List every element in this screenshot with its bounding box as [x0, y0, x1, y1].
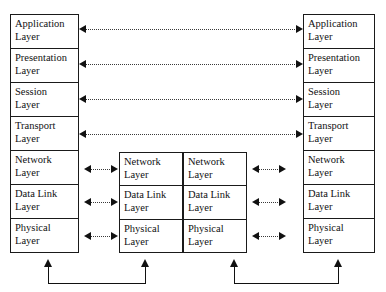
midright-layer-datalink-line2: Layer [188, 201, 246, 214]
midright-layer-physical-line1: Physical [188, 222, 246, 235]
midleft-layer-physical-line1: Physical [124, 222, 182, 235]
midleft-layer-datalink: Data Link Layer [120, 186, 182, 219]
right-layer-session: Session Layer [304, 83, 374, 117]
physical-medium-2-riser-left [234, 266, 235, 284]
hop-link-right-datalink-arrow-right [279, 198, 286, 206]
midleft-layer-datalink-line2: Layer [124, 201, 182, 214]
left-layer-application: Application Layer [11, 15, 78, 49]
peer-link-transport [86, 134, 297, 136]
midright-layer-datalink: Data Link Layer [184, 186, 246, 219]
physical-medium-2-base [234, 283, 338, 284]
left-layer-network-line2: Layer [15, 166, 78, 179]
hop-link-left-datalink-arrow-left [84, 198, 91, 206]
left-layer-application-line2: Layer [15, 30, 78, 43]
left-layer-presentation: Presentation Layer [11, 49, 78, 83]
hop-link-right-network [259, 169, 280, 171]
left-layer-datalink: Data Link Layer [11, 185, 78, 219]
left-layer-session-line1: Session [15, 85, 78, 98]
right-layer-transport-line1: Transport [308, 119, 374, 132]
hop-link-right-physical-arrow-left [252, 232, 259, 240]
right-layer-datalink-line1: Data Link [308, 187, 374, 200]
left-layer-physical: Physical Layer [11, 219, 78, 252]
peer-link-transport-arrow-left [79, 130, 86, 138]
peer-link-application [86, 29, 297, 31]
peer-link-session-arrow-right [296, 95, 303, 103]
hop-link-right-datalink-arrow-left [252, 198, 259, 206]
hop-link-left-network-arrow-left [84, 165, 91, 173]
right-layer-physical: Physical Layer [304, 219, 374, 252]
left-layer-datalink-line2: Layer [15, 200, 78, 213]
right-layer-datalink: Data Link Layer [304, 185, 374, 219]
right-layer-transport-line2: Layer [308, 132, 374, 145]
right-layer-presentation: Presentation Layer [304, 49, 374, 83]
left-layer-transport-line1: Transport [15, 119, 78, 132]
left-layer-transport-line2: Layer [15, 132, 78, 145]
midright-layer-physical-line2: Layer [188, 235, 246, 248]
hop-link-left-datalink-arrow-right [111, 198, 118, 206]
left-layer-session-line2: Layer [15, 98, 78, 111]
right-layer-network-line2: Layer [308, 166, 374, 179]
peer-link-application-arrow-right [296, 25, 303, 33]
left-layer-network: Network Layer [11, 151, 78, 185]
right-layer-transport: Transport Layer [304, 117, 374, 151]
hop-link-right-physical-arrow-right [279, 232, 286, 240]
left-layer-presentation-line1: Presentation [15, 51, 78, 64]
physical-medium-2-arrow-right [334, 259, 342, 267]
hop-link-right-datalink [259, 202, 280, 204]
intermediate-node-left-stack: Network Layer Data Link Layer Physical L… [119, 152, 183, 253]
intermediate-node-right-stack: Network Layer Data Link Layer Physical L… [183, 152, 247, 253]
right-end-system-stack: Application Layer Presentation Layer Ses… [303, 14, 375, 253]
midleft-layer-network: Network Layer [120, 153, 182, 186]
right-layer-datalink-line2: Layer [308, 200, 374, 213]
hop-link-left-physical-arrow-left [84, 232, 91, 240]
peer-link-session-arrow-left [79, 95, 86, 103]
right-layer-application-line1: Application [308, 17, 374, 30]
osi-layer-diagram: Application Layer Presentation Layer Ses… [0, 0, 386, 292]
physical-medium-1-base [48, 283, 145, 284]
left-layer-network-line1: Network [15, 153, 78, 166]
right-layer-application: Application Layer [304, 15, 374, 49]
left-layer-physical-line2: Layer [15, 234, 78, 247]
midleft-layer-network-line2: Layer [124, 168, 182, 181]
peer-link-session [86, 99, 297, 101]
left-layer-transport: Transport Layer [11, 117, 78, 151]
left-layer-application-line1: Application [15, 17, 78, 30]
midright-layer-network-line1: Network [188, 155, 246, 168]
midleft-layer-physical-line2: Layer [124, 235, 182, 248]
physical-medium-2-riser-right [338, 266, 339, 284]
hop-link-left-network-arrow-right [111, 165, 118, 173]
midleft-layer-datalink-line1: Data Link [124, 188, 182, 201]
hop-link-left-physical-arrow-right [111, 232, 118, 240]
hop-link-right-network-arrow-right [279, 165, 286, 173]
left-end-system-stack: Application Layer Presentation Layer Ses… [10, 14, 79, 253]
right-layer-presentation-line2: Layer [308, 64, 374, 77]
hop-link-left-physical [91, 236, 112, 238]
midright-layer-physical: Physical Layer [184, 220, 246, 253]
left-layer-session: Session Layer [11, 83, 78, 117]
right-layer-network: Network Layer [304, 151, 374, 185]
right-layer-physical-line2: Layer [308, 234, 374, 247]
physical-medium-1-riser-right [145, 266, 146, 284]
midright-layer-network: Network Layer [184, 153, 246, 186]
midleft-layer-network-line1: Network [124, 155, 182, 168]
peer-link-presentation-arrow-right [296, 60, 303, 68]
right-layer-network-line1: Network [308, 153, 374, 166]
right-layer-physical-line1: Physical [308, 221, 374, 234]
midright-layer-network-line2: Layer [188, 168, 246, 181]
right-layer-presentation-line1: Presentation [308, 51, 374, 64]
midright-layer-datalink-line1: Data Link [188, 188, 246, 201]
physical-medium-1-arrow-right [141, 259, 149, 267]
midleft-layer-physical: Physical Layer [120, 220, 182, 253]
left-layer-physical-line1: Physical [15, 221, 78, 234]
hop-link-left-datalink [91, 202, 112, 204]
hop-link-right-network-arrow-left [252, 165, 259, 173]
physical-medium-1-riser-left [48, 266, 49, 284]
peer-link-application-arrow-left [79, 25, 86, 33]
peer-link-transport-arrow-right [296, 130, 303, 138]
right-layer-application-line2: Layer [308, 30, 374, 43]
right-layer-session-line1: Session [308, 85, 374, 98]
hop-link-left-network [91, 169, 112, 171]
left-layer-datalink-line1: Data Link [15, 187, 78, 200]
peer-link-presentation [86, 64, 297, 66]
hop-link-right-physical [259, 236, 280, 238]
